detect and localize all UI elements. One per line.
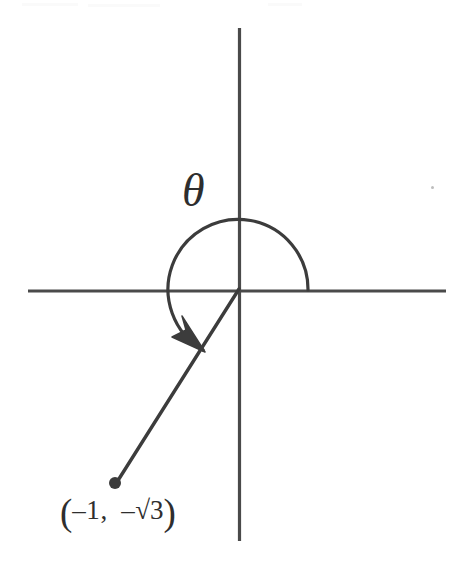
terminal-ray [117,289,239,482]
plotted-point-dot [109,477,121,489]
trigonometry-figure: θ (–1, –√3) [0,0,468,568]
figure-canvas [0,0,468,568]
